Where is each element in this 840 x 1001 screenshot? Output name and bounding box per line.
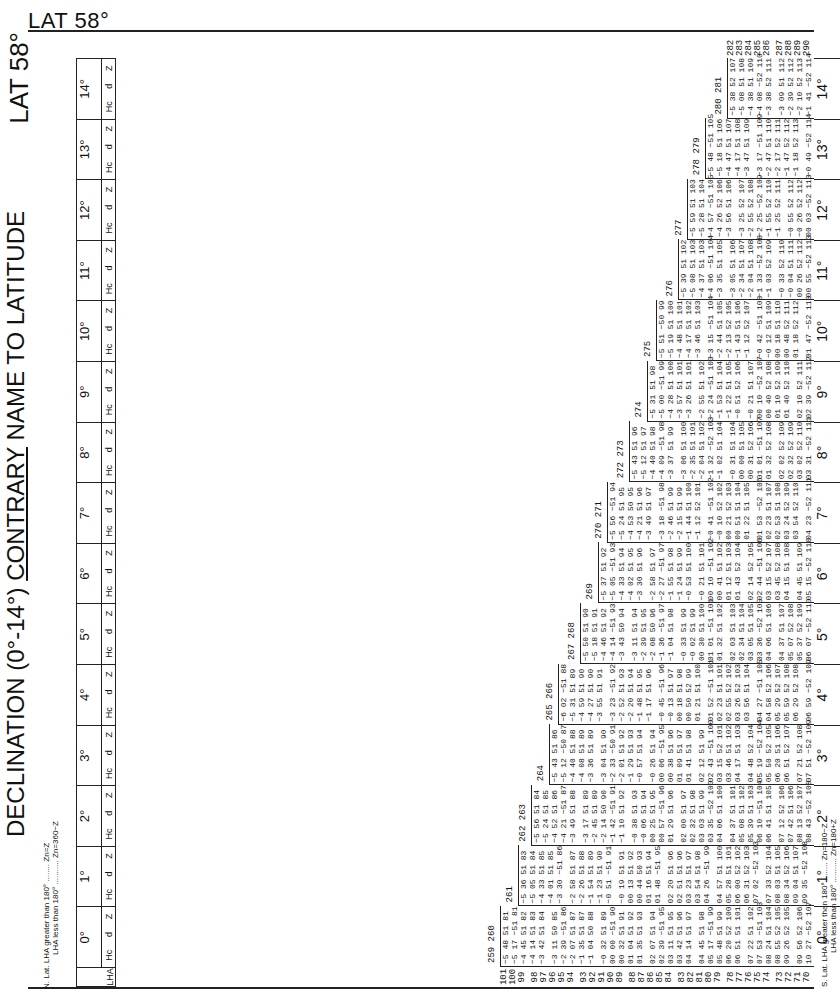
table-row: 04 17 51 103 [733,725,742,783]
decl-column-6: 6°HcdZ [77,543,115,604]
table-row: 00 32 51 91 [617,911,626,964]
sub-header-hc: Hc [104,101,114,112]
table-row: −1 48 51 95 [635,669,644,722]
table-row: 10 27 −52 107 [804,902,813,964]
table-row: 05 19 −52 104 [755,720,764,782]
table-row: 03 23 51 97 [684,851,693,904]
sub-headers: HcdZ [101,362,115,422]
table-row: 02 43 −51 100 [706,720,715,782]
table-row: −5 12 51 97 [639,426,648,479]
table-row: −3 17 51 89 [581,790,590,843]
lha-value: 94 [567,967,576,987]
decl-label: 10° [77,301,92,361]
table-row: −2 55 52 108 [746,179,755,237]
table-row: −1 24 51 99 [675,548,684,601]
sub-header-d: d [104,84,114,89]
lha-header: LHA [77,967,115,987]
table-row: 01 10 52 109 [773,361,782,419]
table-row: −5 18 51 106 [715,119,724,177]
decl-label: 8° [77,423,92,483]
footer-decl-9: 9° [814,361,840,422]
decl-label: 0° [77,907,92,967]
table-row: −5 43 51 96 [630,426,639,479]
table-row: −5 12 −50 87 [559,725,568,783]
decl-label: 1° [77,847,92,907]
table-row: −4 40 51 98 [648,426,657,479]
table-row: 04 06 51 106 [764,603,773,661]
table-row: 08 13 52 107 [795,785,804,843]
table-row: 09 56 52 106 [795,906,804,964]
sub-headers: HcdZ [101,120,115,180]
table-row: −4 57 −51 105 [706,174,715,236]
decl-label: 14° [77,59,92,119]
table-row: −3 35 51 105 [715,240,724,298]
table-row: 03 11 51 95 [666,911,675,964]
sub-headers: HcdZ [101,59,115,119]
table-row: −5 18 51 91 [590,608,599,661]
edge-lha-label: 275 [644,341,653,357]
sub-headers: HcdZ [101,907,115,967]
table-row: −5 05 51 84 [528,851,537,904]
sub-header-z: Z [104,732,114,738]
table-row: 09 35 −52 108 [800,841,809,903]
table-row: −4 59 51 90 [577,669,586,722]
table-row: −4 48 51 101 [675,300,684,358]
table-row: −0 21 51 101 [697,543,706,601]
decl-block-7: −5 56 −51 94−5 24 51 95−4 53 50 95−4 21 … [607,482,814,543]
lha-value: 84 [665,967,674,987]
table-row: 00 10 −52 107 [755,356,764,418]
table-row: 05 28 51 101 [724,846,733,904]
sub-headers: HcdZ [101,241,115,301]
column-headers: LHA 0°HcdZ1°HcdZ2°HcdZ3°HcdZ4°HcdZ5°HcdZ… [76,58,116,987]
edge-lha-label: 265 266 [546,683,555,721]
sub-header-d: d [104,871,114,876]
sub-header-hc: Hc [104,889,114,900]
table-row: −2 39 52 112 [786,58,795,116]
decl-column-9: 9°HcdZ [77,361,115,422]
table-row: −2 45 51 89 [590,790,599,843]
sub-header-hc: Hc [104,465,114,476]
table-row: 04 23 −52 111 [804,477,813,539]
table-row: 07 53 −51 103 [755,902,764,964]
decl-column-1: 1°HcdZ [77,846,115,907]
table-row: 00 06 −51 95 [657,725,666,783]
south-note-line1: LHA greater than 180° ........ Zn=180−Z [820,823,829,961]
table-row: −4 53 50 95 [626,487,635,540]
table-row: 04 48 52 104 [746,725,755,783]
edge-lha-label: 277 [675,220,684,236]
table-row: 01 43 52 104 [733,543,742,601]
table-row: −2 04 51 108 [746,240,755,298]
table-row: 03 02 52 110 [795,422,804,480]
decl-block-0: −5 48 51 81−5 17 −51 81−4 45 51 82−4 14 … [500,906,814,967]
table-row: −2 47 51 110 [764,119,773,177]
sub-headers: HcdZ [101,180,115,240]
table-row: −3 36 51 89 [586,729,595,782]
table-row: 00 00 −51 90 [608,906,617,964]
decl-column-3: 3°HcdZ [77,725,115,786]
table-row: −1 18 52 113 [791,119,800,177]
decl-column-11: 11°HcdZ [77,240,115,301]
decl-block-1: −5 36 51 83−5 05 51 84−4 33 51 85−4 01 5… [518,845,814,906]
table-row: 01 41 51 98 [684,729,693,782]
table-row: −4 33 51 94 [617,548,626,601]
table-row: −6 02 −51 88 [559,664,568,722]
footer-decl-12: 12° [814,179,840,240]
sub-header-hc: Hc [104,162,114,173]
sub-header-z: Z [104,187,114,193]
edge-lha-label: 274 [635,401,644,417]
decl-column-12: 12°HcdZ [77,179,115,240]
table-row: −5 36 51 83 [519,851,528,904]
table-row: 01 35 51 93 [635,911,644,964]
table-row: −3 57 51 101 [675,361,684,419]
table-row: −5 56 51 84 [532,790,541,843]
table-row: 06 07 −52 110 [804,599,813,661]
table-row: 02 44 −51 106 [755,538,764,600]
table-row: −1 47 52 112 [782,119,791,177]
sub-header-z: Z [104,247,114,253]
table-row: −1 42 −51 91 [608,785,617,843]
table-row: 00 18 51 98 [675,669,684,722]
table-row: −5 24 51 85 [541,790,550,843]
table-row: 01 52 −51 101 [706,659,715,721]
table-row: −4 28 51 100 [666,361,675,419]
table-row: −2 33 −50 91 [608,725,617,783]
